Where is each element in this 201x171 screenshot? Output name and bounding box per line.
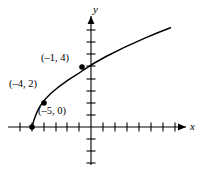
point-label-minus4-2: (–4, 2): [9, 79, 37, 90]
x-axis-label: x: [190, 121, 195, 132]
y-axis: [87, 16, 96, 165]
x-axis-arrowhead: [178, 124, 186, 131]
data-point-minus1-4: [79, 64, 85, 70]
y-axis-label: y: [93, 4, 98, 15]
graph-figure: y x (–1, 4) (–4, 2) (–5, 0): [0, 0, 201, 171]
point-label-minus1-4: (–1, 4): [41, 53, 69, 64]
y-axis-arrowhead: [88, 16, 95, 24]
point-label-minus5-0: (–5, 0): [38, 106, 66, 117]
data-point-minus5-0: [29, 124, 35, 130]
